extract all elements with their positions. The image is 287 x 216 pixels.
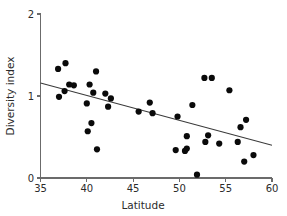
data-point bbox=[235, 139, 241, 145]
data-point bbox=[202, 139, 208, 145]
data-point bbox=[55, 66, 61, 72]
y-tick-labels: 012 bbox=[28, 9, 34, 184]
data-point bbox=[194, 172, 200, 178]
data-point bbox=[84, 100, 90, 106]
data-point bbox=[105, 104, 111, 110]
x-tick-label: 45 bbox=[127, 183, 140, 194]
data-point bbox=[173, 147, 179, 153]
plot-area: 354045505560 012 Latitude Diversity inde… bbox=[0, 0, 287, 216]
data-point bbox=[241, 159, 247, 165]
x-tick-label: 35 bbox=[34, 183, 47, 194]
data-point bbox=[86, 81, 92, 87]
trendline bbox=[41, 83, 273, 145]
data-point bbox=[62, 60, 68, 66]
data-point bbox=[174, 113, 180, 119]
data-point bbox=[149, 110, 155, 116]
data-point bbox=[102, 90, 108, 96]
data-points bbox=[55, 60, 257, 178]
data-point bbox=[209, 75, 215, 81]
x-tick-label: 40 bbox=[80, 183, 93, 194]
data-point bbox=[93, 68, 99, 74]
y-tick-label: 1 bbox=[28, 91, 34, 102]
data-point bbox=[85, 128, 91, 134]
y-tick-label: 2 bbox=[28, 9, 34, 20]
regression-line bbox=[41, 83, 273, 145]
data-point bbox=[88, 120, 94, 126]
data-point bbox=[201, 75, 207, 81]
x-tick-label: 55 bbox=[219, 183, 232, 194]
data-point bbox=[243, 117, 249, 123]
y-axis-title: Diversity index bbox=[4, 57, 16, 136]
data-point bbox=[184, 145, 190, 151]
data-point bbox=[250, 152, 256, 158]
data-point bbox=[226, 87, 232, 93]
data-point bbox=[136, 108, 142, 114]
y-tick-label: 0 bbox=[28, 173, 34, 184]
data-point bbox=[56, 94, 62, 100]
axes bbox=[41, 14, 273, 178]
scatter-chart: 354045505560 012 Latitude Diversity inde… bbox=[0, 0, 287, 216]
data-point bbox=[237, 124, 243, 130]
data-point bbox=[71, 82, 77, 88]
data-point bbox=[189, 102, 195, 108]
data-point bbox=[94, 146, 100, 152]
data-point bbox=[147, 99, 153, 105]
x-tick-label: 50 bbox=[173, 183, 186, 194]
data-point bbox=[184, 133, 190, 139]
data-point bbox=[205, 132, 211, 138]
data-point bbox=[61, 88, 67, 94]
data-point bbox=[216, 140, 222, 146]
tick-marks bbox=[37, 14, 272, 182]
x-axis-title: Latitude bbox=[121, 199, 164, 211]
x-tick-label: 60 bbox=[266, 183, 279, 194]
data-point bbox=[108, 95, 114, 101]
data-point bbox=[90, 90, 96, 96]
x-tick-labels: 354045505560 bbox=[34, 183, 278, 194]
axis-spines bbox=[41, 14, 273, 178]
